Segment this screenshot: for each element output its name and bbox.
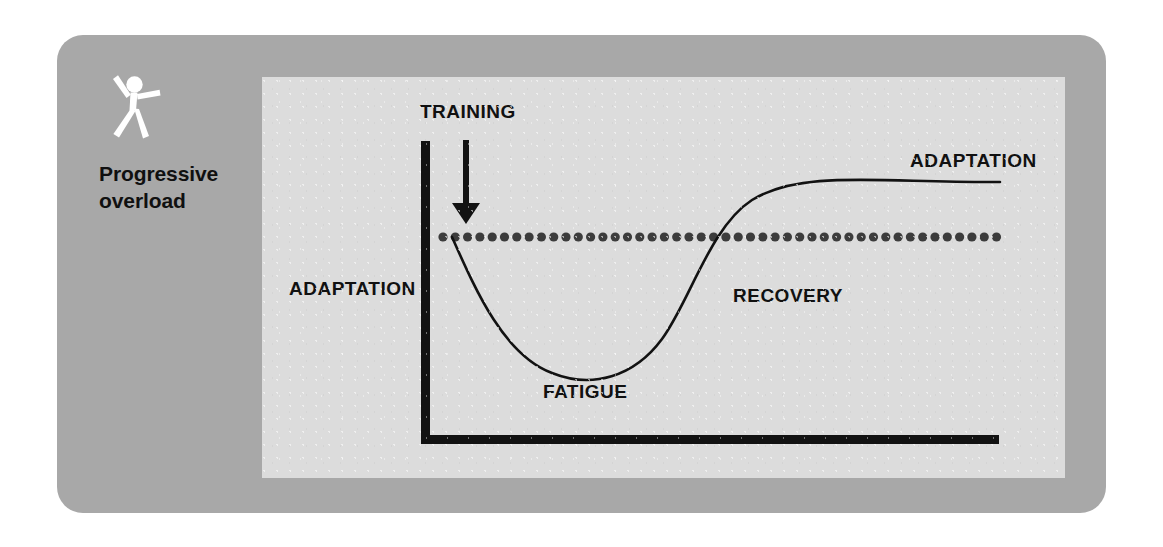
adaptation-curve bbox=[452, 180, 1000, 380]
infographic-root: Progressive overload bbox=[0, 0, 1163, 547]
progressive-overload-card: Progressive overload bbox=[57, 35, 1106, 513]
title-line-2: overload bbox=[99, 189, 186, 212]
training-arrow bbox=[452, 140, 480, 224]
training-label: TRAINING bbox=[420, 101, 516, 123]
card-left-column: Progressive overload bbox=[99, 73, 249, 215]
page-title: Progressive overload bbox=[99, 161, 249, 215]
y-axis bbox=[421, 141, 430, 444]
adaptation-left-label: ADAPTATION bbox=[289, 278, 416, 300]
recovery-label: RECOVERY bbox=[733, 285, 843, 307]
adaptation-right-label: ADAPTATION bbox=[910, 150, 1037, 172]
fatigue-label: FATIGUE bbox=[543, 381, 627, 403]
x-axis bbox=[421, 435, 999, 444]
exercising-person-icon bbox=[101, 73, 163, 139]
chart-panel: TRAINING ADAPTATION FATIGUE RECOVERY ADA… bbox=[262, 77, 1065, 478]
title-line-1: Progressive bbox=[99, 162, 218, 185]
